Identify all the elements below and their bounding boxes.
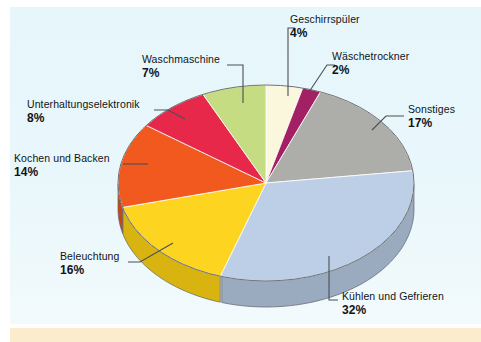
label-beleuchtung: Beleuchtung 16% [60, 250, 119, 276]
label-unterhaltung-name: Unterhaltungselektronik [27, 98, 140, 111]
label-waeschetrockner-name: Wäschetrockner [332, 50, 409, 63]
label-waeschetrockner-percent: 2% [332, 64, 409, 77]
pie-chart-figure: Geschirrspüler 4% Wäschetrockner 2% Sons… [0, 0, 481, 342]
label-sonstiges-name: Sonstiges [408, 103, 455, 116]
label-beleuchtung-percent: 16% [60, 264, 119, 277]
label-kochen-percent: 14% [14, 166, 110, 179]
label-kochen-name: Kochen und Backen [14, 152, 110, 165]
label-sonstiges: Sonstiges 17% [408, 103, 455, 129]
label-waschmaschine: Waschmaschine 7% [142, 53, 220, 79]
bottom-color-strip [10, 328, 481, 342]
label-kuehlen: Kühlen und Gefrieren 32% [342, 290, 444, 316]
label-kuehlen-percent: 32% [342, 304, 444, 317]
label-waeschetrockner: Wäschetrockner 2% [332, 50, 409, 76]
label-geschirrspueler: Geschirrspüler 4% [290, 13, 360, 39]
label-waschmaschine-percent: 7% [142, 67, 220, 80]
label-geschirrspueler-name: Geschirrspüler [290, 13, 360, 26]
label-geschirrspueler-percent: 4% [290, 27, 360, 40]
label-beleuchtung-name: Beleuchtung [60, 250, 119, 263]
pie-slices-group [118, 85, 414, 307]
label-waschmaschine-name: Waschmaschine [142, 53, 220, 66]
label-sonstiges-percent: 17% [408, 117, 455, 130]
label-unterhaltung-percent: 8% [27, 112, 140, 125]
label-unterhaltung: Unterhaltungselektronik 8% [27, 98, 140, 124]
label-kuehlen-name: Kühlen und Gefrieren [342, 290, 444, 303]
label-kochen: Kochen und Backen 14% [14, 152, 110, 178]
